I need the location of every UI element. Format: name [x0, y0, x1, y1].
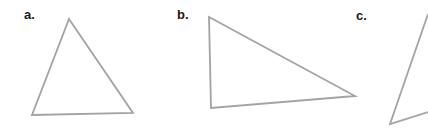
- label-a: a.: [24, 8, 35, 21]
- label-c: c.: [356, 9, 367, 22]
- triangle-figure: a. b. c.: [0, 0, 428, 131]
- triangle-b: [209, 17, 355, 108]
- triangle-a: [32, 19, 133, 115]
- label-b: b.: [177, 8, 189, 21]
- triangle-c: [390, 14, 428, 124]
